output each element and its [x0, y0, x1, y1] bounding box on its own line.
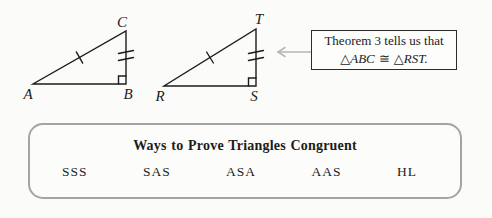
triangle-name-rst: RST — [404, 51, 425, 66]
theorem-callout-line2: △ABC≅△RST. — [312, 50, 456, 68]
vertex-label-r: R — [154, 88, 164, 104]
period: . — [425, 51, 428, 66]
tick-mark-rt — [207, 52, 214, 63]
triangle-name-abc: ABC — [350, 51, 375, 66]
congruence-methods-panel: Ways to Prove Triangles Congruent SSS SA… — [28, 123, 462, 199]
methods-row: SSS SAS ASA AAS HL — [30, 164, 460, 180]
right-angle-mark-b — [119, 76, 127, 84]
vertex-label-s: S — [250, 88, 258, 104]
theorem-callout-line1: Theorem 3 tells us that — [312, 32, 456, 50]
method-sas: SAS — [143, 164, 171, 180]
textbook-figure: A B C R S T Theorem 3 tells us that △ABC… — [0, 0, 492, 218]
tick-mark-ac — [76, 52, 82, 63]
method-hl: HL — [397, 164, 417, 180]
panel-title: Ways to Prove Triangles Congruent — [30, 138, 460, 154]
vertex-label-b: B — [123, 86, 132, 102]
method-aas: AAS — [312, 164, 342, 180]
right-angle-mark-s — [249, 78, 257, 86]
vertex-label-a: A — [22, 86, 33, 102]
triangle-symbol: △ — [394, 51, 404, 66]
method-asa: ASA — [226, 164, 256, 180]
triangle-symbol: △ — [340, 51, 350, 66]
method-sss: SSS — [62, 164, 88, 180]
congruence-symbol: ≅ — [379, 51, 390, 66]
theorem-callout-box: Theorem 3 tells us that △ABC≅△RST. — [311, 30, 457, 70]
vertex-label-t: T — [255, 11, 265, 27]
callout-arrow-icon — [278, 48, 311, 57]
vertex-label-c: C — [117, 14, 128, 30]
